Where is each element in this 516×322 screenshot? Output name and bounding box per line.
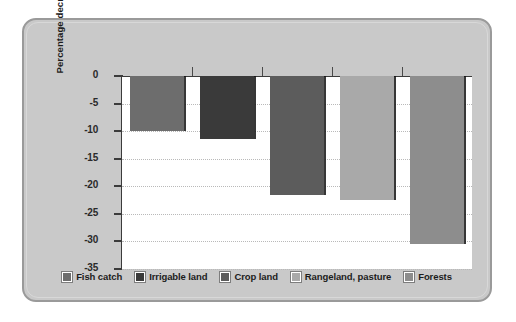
x-axis-separator bbox=[262, 67, 263, 76]
bar bbox=[410, 76, 464, 244]
x-axis-separator bbox=[332, 67, 333, 76]
y-axis-tick bbox=[114, 185, 121, 187]
legend-item-label: Fish catch bbox=[76, 271, 122, 282]
legend-item[interactable]: Rangeland, pasture bbox=[291, 271, 391, 282]
y-axis-tick bbox=[114, 213, 121, 215]
y-axis-tick bbox=[114, 130, 121, 132]
legend: Fish catchIrrigable landCrop landRangela… bbox=[24, 271, 490, 282]
legend-swatch-icon bbox=[135, 272, 145, 282]
legend-item[interactable]: Crop land bbox=[220, 271, 277, 282]
plot-wrap: 0-5-10-15-20-25-30-35 bbox=[102, 58, 472, 269]
bar bbox=[200, 76, 254, 139]
y-axis-tick-label: -10 bbox=[58, 124, 98, 135]
legend-item[interactable]: Fish catch bbox=[62, 271, 122, 282]
y-axis-tick bbox=[114, 158, 121, 160]
gridline bbox=[122, 269, 472, 270]
legend-swatch-icon bbox=[62, 272, 72, 282]
bar bbox=[340, 76, 394, 200]
y-axis-tick-label: -20 bbox=[58, 179, 98, 190]
y-axis-tick bbox=[114, 268, 121, 270]
bar bbox=[270, 76, 324, 195]
x-axis-separator bbox=[192, 67, 193, 76]
y-axis-tick-label: -25 bbox=[58, 207, 98, 218]
y-axis-tick-label: 0 bbox=[58, 69, 98, 80]
bar bbox=[130, 76, 184, 131]
plot-area bbox=[122, 76, 472, 269]
x-axis-separator bbox=[402, 67, 403, 76]
y-axis-tick bbox=[114, 75, 121, 77]
y-axis-tick-label: -5 bbox=[58, 97, 98, 108]
legend-item-label: Forests bbox=[418, 271, 452, 282]
legend-item-label: Rangeland, pasture bbox=[305, 271, 391, 282]
legend-item-label: Crop land bbox=[234, 271, 277, 282]
legend-swatch-icon bbox=[404, 272, 414, 282]
legend-item[interactable]: Irrigable land bbox=[135, 271, 207, 282]
y-axis-tick-label: -15 bbox=[58, 152, 98, 163]
y-axis-tick bbox=[114, 103, 121, 105]
legend-swatch-icon bbox=[291, 272, 301, 282]
y-axis-tick bbox=[114, 240, 121, 242]
legend-item-label: Irrigable land bbox=[149, 271, 207, 282]
legend-swatch-icon bbox=[220, 272, 230, 282]
y-axis-tick-label: -30 bbox=[58, 234, 98, 245]
legend-item[interactable]: Forests bbox=[404, 271, 452, 282]
chart-panel: Percentage decrease 0-5-10-15-20-25-30-3… bbox=[22, 18, 492, 302]
